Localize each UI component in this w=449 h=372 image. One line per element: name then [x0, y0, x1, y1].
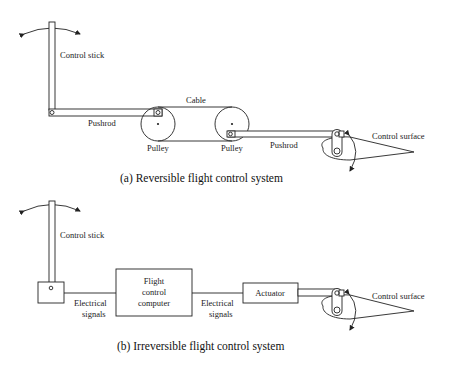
label-pushrod-left: Pushrod: [88, 118, 117, 128]
label-fcc-line2: control: [142, 287, 167, 297]
control-stick: [49, 22, 55, 110]
label-control-stick: Control stick: [60, 50, 105, 60]
stick-base-box: [38, 282, 64, 303]
control-stick: [49, 201, 55, 283]
flight-control-diagrams: Control stick Pushrod Cable Pulley Pulle…: [0, 0, 449, 372]
label-control-stick: Control stick: [60, 230, 105, 240]
label-electrical-signals-1-line1: Electrical: [74, 298, 107, 308]
label-pushrod-right: Pushrod: [270, 140, 299, 150]
irreversible-system: Control stick Electrical signals Flight …: [24, 201, 425, 353]
label-pulley-right: Pulley: [221, 143, 243, 153]
label-cable: Cable: [186, 95, 206, 105]
pushrod-right: [228, 131, 338, 137]
label-fcc-line1: Flight: [144, 276, 165, 286]
label-control-surface: Control surface: [372, 131, 425, 141]
label-electrical-signals-2-line1: Electrical: [201, 298, 234, 308]
label-electrical-signals-1-line2: signals: [82, 309, 106, 319]
label-fcc-line3: computer: [138, 298, 170, 308]
reversible-system: Control stick Pushrod Cable Pulley Pulle…: [24, 22, 425, 185]
label-electrical-signals-2-line2: signals: [209, 309, 233, 319]
caption-a: (a) Reversible flight control system: [120, 172, 283, 185]
label-actuator: Actuator: [255, 288, 285, 298]
surface-rotation-arrow-icon: [349, 294, 356, 330]
label-control-surface: Control surface: [372, 291, 425, 301]
surface-rotation-arrow-icon: [349, 135, 356, 171]
label-pulley-left: Pulley: [147, 143, 169, 153]
caption-b: (b) Irreversible flight control system: [117, 340, 284, 353]
